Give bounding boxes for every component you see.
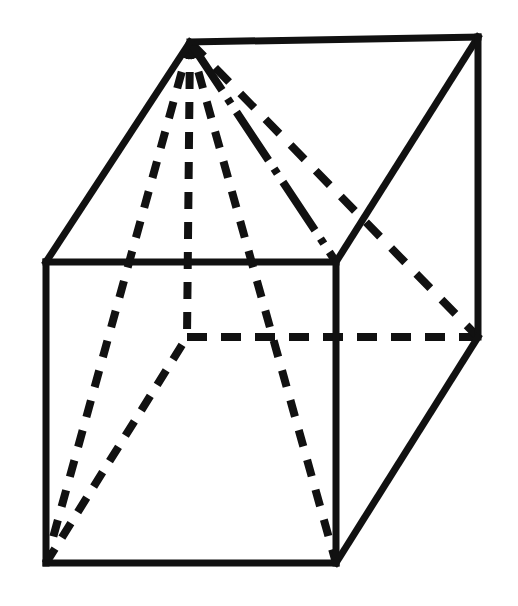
geometric-figure-container bbox=[0, 0, 518, 606]
edge-back-top-edge bbox=[190, 37, 478, 42]
prism-pyramid-diagram bbox=[0, 0, 518, 606]
